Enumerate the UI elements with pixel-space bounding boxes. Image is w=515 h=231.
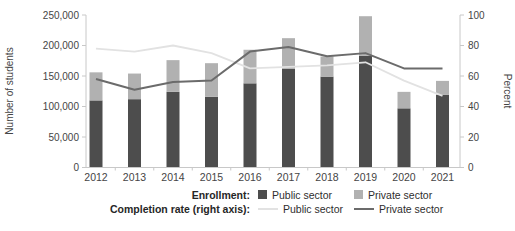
private-bar-swatch [354, 190, 363, 199]
legend-entry-line-private: Private sector [354, 203, 443, 215]
x-axis-year-label: 2014 [161, 171, 185, 183]
left-axis-tick-label: 100,000 [43, 101, 80, 112]
bar-private-2020 [398, 92, 411, 108]
x-axis-year-label: 2018 [315, 171, 339, 183]
completion-line-public [96, 46, 443, 96]
bar-private-2018 [321, 56, 334, 76]
bar-public-2019 [359, 56, 372, 168]
right-axis-tick-label: 40 [468, 101, 480, 112]
legend-row-enrollment: Enrollment: Public sector Private sector [0, 188, 515, 201]
x-axis-year-label: 2016 [238, 171, 262, 183]
legend-entry-bar-private: Private sector [354, 189, 432, 201]
legend-bar-private-label: Private sector [368, 189, 432, 201]
left-axis-title: Number of students [4, 47, 15, 134]
right-axis-tick-label: 60 [468, 71, 480, 82]
x-axis-year-label: 2017 [277, 171, 301, 183]
bar-public-2013 [128, 99, 141, 167]
bar-public-2012 [90, 100, 103, 167]
legend-enrollment-label: Enrollment: [0, 189, 250, 201]
x-axis-year-label: 2020 [392, 171, 416, 183]
bar-private-2012 [90, 72, 103, 100]
bar-public-2015 [205, 97, 218, 168]
legend-completion-label: Completion rate (right axis): [0, 203, 250, 215]
bar-private-2019 [359, 16, 372, 56]
public-line-swatch [258, 208, 278, 210]
enrollment-completion-figure: 050,000100,000150,000200,000250,00002040… [0, 0, 515, 231]
private-line-swatch [354, 208, 374, 210]
x-axis-year-label: 2013 [123, 171, 147, 183]
bar-private-2017 [282, 38, 295, 69]
bar-public-2014 [167, 92, 180, 168]
legend-row-completion: Completion rate (right axis): Public sec… [0, 202, 515, 215]
bar-private-2021 [436, 81, 449, 95]
bar-public-2017 [282, 69, 295, 168]
bar-public-2018 [321, 77, 334, 168]
x-axis-year-label: 2019 [354, 171, 378, 183]
legend-line-private-label: Private sector [379, 203, 443, 215]
bar-private-2013 [128, 74, 141, 100]
left-axis-tick-label: 150,000 [43, 71, 80, 82]
bar-public-2021 [436, 95, 449, 168]
bar-public-2020 [398, 108, 411, 167]
legend-line-public-label: Public sector [283, 203, 343, 215]
public-bar-swatch [258, 190, 267, 199]
left-axis-tick-label: 50,000 [48, 132, 79, 143]
x-axis-year-label: 2021 [431, 171, 455, 183]
chart-legend: Enrollment: Public sector Private sector… [0, 188, 515, 216]
legend-entry-line-public: Public sector [258, 203, 344, 215]
x-axis-year-label: 2012 [84, 171, 108, 183]
legend-bar-public-label: Public sector [272, 189, 332, 201]
left-axis-tick-label: 200,000 [43, 40, 80, 51]
legend-entry-bar-public: Public sector [258, 189, 344, 201]
right-axis-tick-label: 20 [468, 132, 480, 143]
right-axis-tick-label: 0 [468, 162, 474, 173]
bar-private-2014 [167, 60, 180, 92]
x-axis-year-label: 2015 [200, 171, 224, 183]
chart-canvas: 050,000100,000150,000200,000250,00002040… [0, 0, 515, 190]
right-axis-title: Percent [502, 74, 513, 109]
left-axis-tick-label: 250,000 [43, 10, 80, 21]
right-axis-tick-label: 100 [468, 10, 485, 21]
right-axis-tick-label: 80 [468, 40, 480, 51]
bar-public-2016 [244, 83, 257, 167]
left-axis-tick-label: 0 [73, 162, 79, 173]
